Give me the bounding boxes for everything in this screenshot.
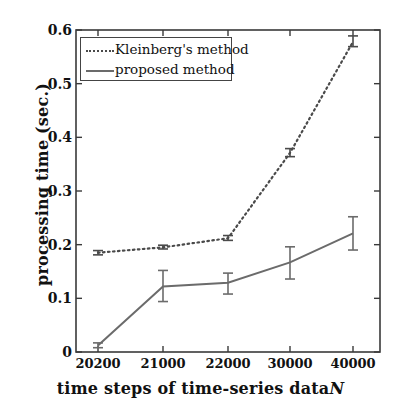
error-bar (348, 36, 358, 47)
solid-line-swatch-icon (85, 64, 115, 76)
error-bar (348, 217, 358, 250)
legend-item-kleinberg: Kleinberg's method (85, 40, 227, 60)
error-bar (93, 343, 103, 348)
legend-label-kleinberg: Kleinberg's method (115, 43, 249, 57)
figure-container: processing time (sec.) 00.10.20.30.40.50… (0, 0, 401, 411)
series-line-proposed (98, 233, 353, 345)
legend-box: Kleinberg's method proposed method (80, 37, 232, 81)
series-layer (93, 36, 358, 348)
error-bar (223, 236, 233, 241)
error-bar (93, 251, 103, 255)
legend-item-proposed: proposed method (85, 60, 227, 80)
error-bar (285, 149, 295, 157)
dotted-line-swatch-icon (85, 44, 115, 56)
legend-label-proposed: proposed method (115, 63, 235, 77)
